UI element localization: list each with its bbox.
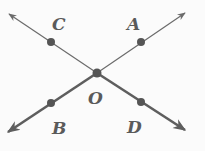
label-O: O: [88, 88, 103, 108]
label-C: C: [52, 14, 66, 34]
point-D: [137, 98, 145, 106]
intersecting-lines-diagram: C A O B D: [0, 0, 205, 151]
diagram-canvas: C A O B D: [0, 0, 205, 151]
label-D: D: [126, 117, 142, 137]
point-B: [47, 99, 55, 107]
point-C: [47, 38, 55, 46]
point-A: [137, 38, 145, 46]
point-O: [93, 69, 102, 78]
label-B: B: [51, 118, 66, 138]
label-A: A: [125, 14, 140, 34]
